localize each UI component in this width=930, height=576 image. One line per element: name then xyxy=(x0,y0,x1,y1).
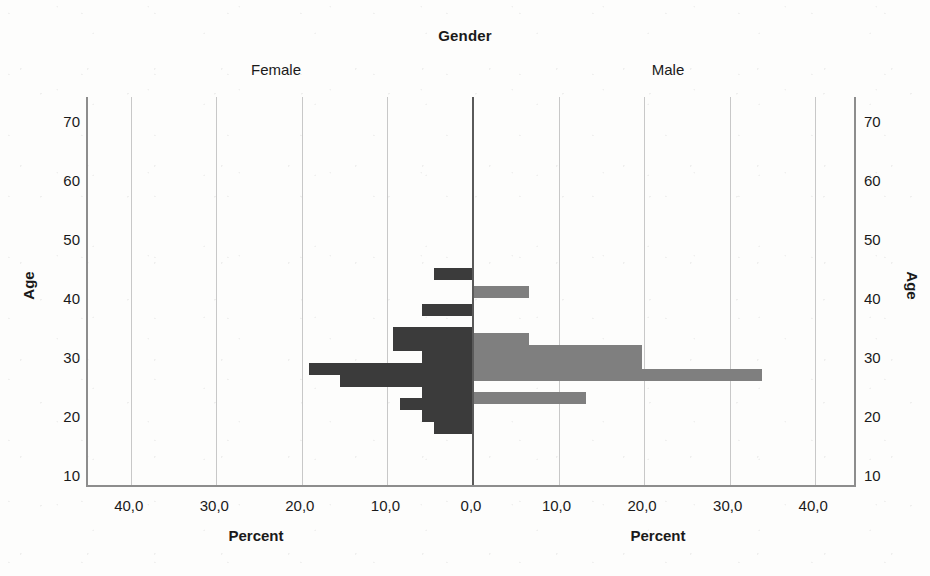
y-tick-label-70: 70 xyxy=(864,114,904,129)
panel-header-male: Male xyxy=(588,61,748,78)
y-tick-label-10: 10 xyxy=(864,468,904,483)
y-axis-title-right: Age xyxy=(905,271,920,299)
gridline-10 xyxy=(559,97,560,485)
x-tick-label-30: 30,0 xyxy=(693,497,763,514)
bar-male-age-33 xyxy=(473,333,529,345)
bar-female-age-18 xyxy=(434,422,473,434)
x-tick-label-neg40: 40,0 xyxy=(94,497,164,514)
y-tick-label-60: 60 xyxy=(40,173,80,188)
bar-male-age-23 xyxy=(473,392,586,404)
gridline-30 xyxy=(730,97,731,485)
bar-female-age-20 xyxy=(422,410,473,422)
x-axis-title-male: Percent xyxy=(578,527,738,544)
y-axis-ticks-left: 10203040506070 xyxy=(38,97,80,487)
y-axis-title-left: Age xyxy=(21,271,36,299)
x-tick-label-0: 0,0 xyxy=(436,497,506,514)
gridline-neg20 xyxy=(302,97,303,485)
x-tick-label-neg20: 20,0 xyxy=(265,497,335,514)
x-tick-label-10: 10,0 xyxy=(522,497,592,514)
gridline-neg10 xyxy=(387,97,388,485)
y-tick-label-30: 30 xyxy=(40,350,80,365)
bar-female-age-28 xyxy=(309,363,473,375)
bar-female-age-24 xyxy=(422,386,473,398)
bar-female-age-22 xyxy=(400,398,473,410)
gridline-20 xyxy=(644,97,645,485)
bar-female-age-26 xyxy=(340,375,473,387)
y-tick-label-40: 40 xyxy=(864,291,904,306)
bar-female-age-34 xyxy=(393,327,473,339)
plot-area xyxy=(86,97,856,487)
y-tick-label-70: 70 xyxy=(40,114,80,129)
bar-male-age-29 xyxy=(473,357,642,369)
y-tick-label-50: 50 xyxy=(40,232,80,247)
x-tick-label-20: 20,0 xyxy=(607,497,677,514)
chart-title: Gender xyxy=(0,27,930,44)
y-tick-label-20: 20 xyxy=(864,409,904,424)
bar-male-age-31 xyxy=(473,345,642,357)
center-axis-line xyxy=(472,97,474,485)
y-tick-label-60: 60 xyxy=(864,173,904,188)
panel-header-female: Female xyxy=(196,61,356,78)
y-tick-label-40: 40 xyxy=(40,291,80,306)
bar-female-age-32 xyxy=(393,339,473,351)
bar-female-age-30 xyxy=(422,351,473,363)
x-axis-title-female: Percent xyxy=(176,527,336,544)
bar-female-age-38 xyxy=(422,304,473,316)
y-tick-label-20: 20 xyxy=(40,409,80,424)
bar-male-age-27 xyxy=(473,369,762,381)
y-axis-ticks-right: 10203040506070 xyxy=(864,97,906,487)
x-tick-label-neg10: 10,0 xyxy=(350,497,420,514)
bar-male-age-41 xyxy=(473,286,529,298)
y-tick-label-50: 50 xyxy=(864,232,904,247)
y-tick-label-10: 10 xyxy=(40,468,80,483)
gender-population-pyramid-chart: Gender Female Male 10203040506070 102030… xyxy=(0,0,930,576)
gridline-neg30 xyxy=(216,97,217,485)
y-tick-label-30: 30 xyxy=(864,350,904,365)
gridline-40 xyxy=(815,97,816,485)
x-tick-label-neg30: 30,0 xyxy=(179,497,249,514)
gridline-neg40 xyxy=(131,97,132,485)
x-tick-label-40: 40,0 xyxy=(778,497,848,514)
bar-female-age-44 xyxy=(434,268,473,280)
